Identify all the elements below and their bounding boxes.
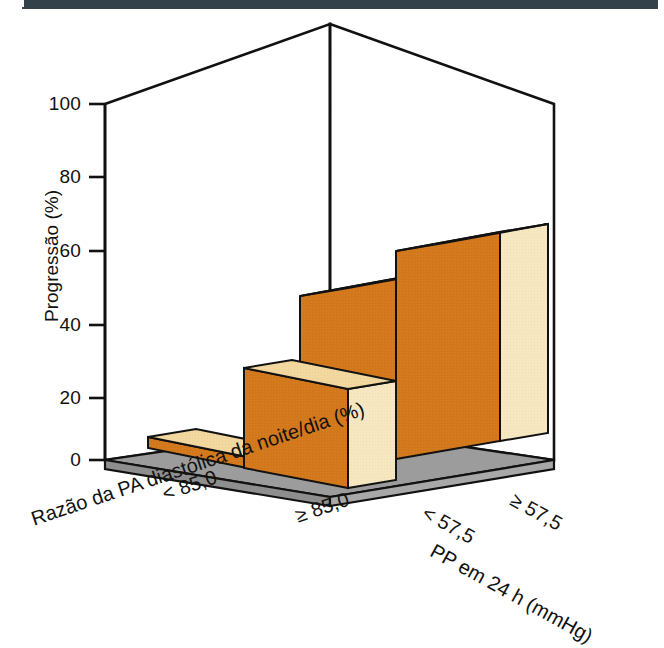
y-axis — [89, 104, 105, 460]
y-axis-title: Progressão (%) — [41, 156, 63, 356]
y-tick-100: 100 — [33, 94, 81, 113]
y-tick-0: 0 — [33, 450, 81, 469]
bar-x2-z2 — [396, 224, 548, 459]
y-tick-20: 20 — [33, 388, 81, 407]
